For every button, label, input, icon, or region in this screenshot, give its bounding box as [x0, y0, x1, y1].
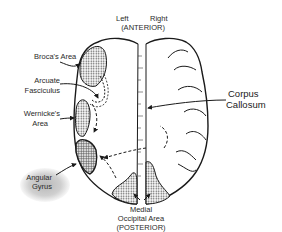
- label-fasciculus: Fasciculus: [20, 86, 60, 95]
- angular-gyrus: [76, 140, 97, 174]
- label-wernickes: Wernicke's: [14, 109, 60, 118]
- label-corpus: Corpus: [228, 88, 259, 99]
- label-gyrus: Gyrus: [20, 182, 52, 191]
- wernickes-area: [75, 100, 90, 136]
- label-wernicke-area: Area: [14, 119, 48, 128]
- label-anterior: (ANTERIOR): [117, 23, 169, 32]
- label-occipital-area: Occipital Area: [108, 214, 174, 223]
- label-callosum: Callosum: [226, 99, 266, 110]
- label-right: Right: [150, 14, 168, 23]
- label-left: Left: [116, 14, 129, 23]
- label-medial: Medial: [112, 205, 170, 214]
- label-arcuate: Arcuate: [20, 76, 60, 85]
- label-brocas-area: Broca's Area: [34, 52, 76, 61]
- label-angular: Angular: [20, 173, 52, 182]
- label-posterior: (POSTERIOR): [108, 223, 174, 232]
- medial-occipital-area-right: [146, 162, 170, 204]
